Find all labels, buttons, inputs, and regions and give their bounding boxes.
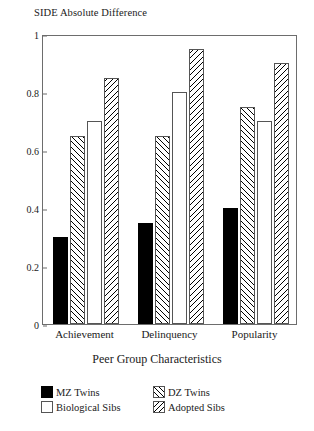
bar-delinquency-dz-twins xyxy=(155,136,170,325)
bar-popularity-adopted-sibs xyxy=(274,63,289,324)
bar-achievement-biological-sibs xyxy=(87,121,102,324)
legend-item-adopted-sibs[interactable]: Adopted Sibs xyxy=(153,401,273,413)
y-axis-tick-mark xyxy=(43,326,47,327)
chart-title: SIDE Absolute Difference xyxy=(34,7,147,18)
bar-popularity-dz-twins xyxy=(240,107,255,325)
y-axis-tick-label: 0.4 xyxy=(27,205,40,215)
bar-popularity-biological-sibs xyxy=(257,121,272,324)
legend-label: Adopted Sibs xyxy=(168,402,225,413)
legend-label: DZ Twins xyxy=(168,387,210,398)
y-axis-tick-label: 0.6 xyxy=(27,147,40,157)
bar-delinquency-adopted-sibs xyxy=(189,49,204,325)
chart-legend: MZ TwinsDZ TwinsBiological SibsAdopted S… xyxy=(0,386,314,416)
legend-label: Biological Sibs xyxy=(56,402,120,413)
bars-layer xyxy=(43,36,296,324)
legend-item-biological-sibs[interactable]: Biological Sibs xyxy=(41,401,153,413)
legend-swatch-adopted-sibs xyxy=(153,401,165,413)
legend-label: MZ Twins xyxy=(56,387,100,398)
legend-row: Biological SibsAdopted Sibs xyxy=(41,401,273,413)
legend-swatch-mz-twins xyxy=(41,386,53,398)
y-axis-tick-label: 1 xyxy=(34,31,39,41)
bar-delinquency-mz-twins xyxy=(138,223,153,325)
bar-popularity-mz-twins xyxy=(223,208,238,324)
x-axis-category-label: Delinquency xyxy=(141,328,197,340)
x-axis-category-label: Achievement xyxy=(55,328,114,340)
y-axis-tick-label: 0.2 xyxy=(27,263,40,273)
legend-swatch-biological-sibs xyxy=(41,401,53,413)
x-axis-category-label: Popularity xyxy=(232,328,278,340)
bar-delinquency-biological-sibs xyxy=(172,92,187,324)
plot-area: 00.20.40.60.81 xyxy=(42,35,297,325)
y-axis-tick-label: 0.8 xyxy=(27,89,40,99)
legend-row: MZ TwinsDZ Twins xyxy=(41,386,273,398)
bar-achievement-adopted-sibs xyxy=(104,78,119,325)
bar-achievement-dz-twins xyxy=(70,136,85,325)
legend-swatch-dz-twins xyxy=(153,386,165,398)
legend-item-mz-twins[interactable]: MZ Twins xyxy=(41,386,153,398)
x-axis-title: Peer Group Characteristics xyxy=(0,352,314,367)
legend-item-dz-twins[interactable]: DZ Twins xyxy=(153,386,273,398)
bar-achievement-mz-twins xyxy=(53,237,68,324)
y-axis-tick-label: 0 xyxy=(34,321,39,331)
